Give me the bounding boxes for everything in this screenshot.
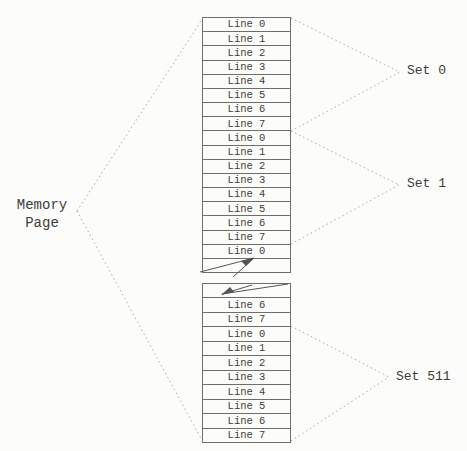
line-row: Line 2: [203, 160, 290, 174]
set-0-label: Set 0: [407, 64, 446, 78]
line-row: Line 0: [203, 245, 290, 259]
set-511-label: Set 511: [396, 370, 451, 384]
memory-page-cache-set-diagram: MemoryPage Line 0 Line 1 Line 2 Line 3 L…: [0, 0, 467, 451]
memory-block-bottom: Line 6 Line 7 Line 0 Line 1 Line 2 Line …: [202, 283, 291, 443]
set-0-connector-top: [291, 18, 400, 72]
line-row: Line 3: [203, 371, 290, 385]
line-row: Line 6: [203, 298, 290, 312]
line-row: Line 4: [203, 188, 290, 202]
set-0-connector-bottom: [291, 72, 400, 131]
line-row: Line 5: [203, 202, 290, 216]
set-1-connector-top: [291, 131, 399, 185]
memory-block-top: Line 0 Line 1 Line 2 Line 3 Line 4 Line …: [202, 17, 291, 273]
set-1-connector-bottom: [291, 185, 399, 244]
set-1-label: Set 1: [407, 177, 446, 191]
memory-page-connector-bottom: [77, 211, 203, 442]
memory-page-label: MemoryPage: [12, 196, 72, 232]
line-row: Line 1: [203, 32, 290, 46]
line-row: Line 3: [203, 174, 290, 188]
break-cell: [203, 259, 290, 272]
line-row: Line 0: [203, 131, 290, 145]
line-row: Line 6: [203, 103, 290, 117]
line-row: Line 2: [203, 356, 290, 370]
line-row: Line 1: [203, 342, 290, 356]
line-row: Line 0: [203, 327, 290, 341]
line-row: Line 6: [203, 216, 290, 230]
line-row: Line 4: [203, 385, 290, 399]
line-row: Line 1: [203, 146, 290, 160]
line-row: Line 7: [203, 117, 290, 131]
set-511-connector-top: [291, 326, 389, 377]
memory-page-label-line2: Page: [25, 215, 59, 231]
line-row: Line 2: [203, 46, 290, 60]
line-row: Line 6: [203, 414, 290, 428]
set-511-connector-bottom: [291, 377, 389, 441]
line-row: Line 5: [203, 400, 290, 414]
line-row: Line 7: [203, 231, 290, 245]
line-row: Line 4: [203, 75, 290, 89]
line-row: Line 5: [203, 89, 290, 103]
line-row: Line 0: [203, 18, 290, 32]
memory-page-connector-top: [77, 18, 203, 211]
break-cell: [203, 284, 290, 298]
line-row: Line 7: [203, 313, 290, 327]
memory-page-label-line1: Memory: [17, 197, 67, 213]
line-row: Line 7: [203, 429, 290, 442]
line-row: Line 3: [203, 61, 290, 75]
